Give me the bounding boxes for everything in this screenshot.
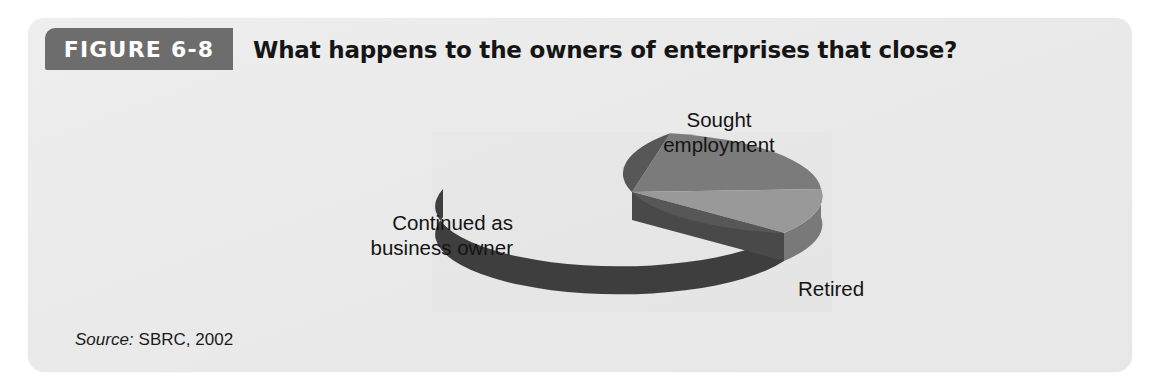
figure-title: What happens to the owners of enterprise… xyxy=(253,30,957,70)
pie-label-retired-text: Retired xyxy=(798,276,864,301)
pie-chart-area: Sought employment Continued as business … xyxy=(28,70,1132,320)
pie-label-continued-owner: Continued as business owner xyxy=(308,210,513,260)
figure-number-label: FIGURE 6-8 xyxy=(64,37,215,62)
pie-label-sought-line1: Sought xyxy=(624,107,814,132)
figure-number-banner: FIGURE 6-8 xyxy=(45,28,233,70)
pie-label-retired: Retired xyxy=(798,276,864,301)
pie-label-continued-line2: business owner xyxy=(308,235,513,260)
source-line: Source:SBRC, 2002 xyxy=(75,330,233,350)
pie-label-sought-employment: Sought employment xyxy=(624,107,814,157)
pie-label-continued-line1: Continued as xyxy=(308,210,513,235)
source-prefix: Source: xyxy=(75,330,134,349)
pie-label-sought-line2: employment xyxy=(624,132,814,157)
source-text: SBRC, 2002 xyxy=(134,330,234,349)
figure-card: FIGURE 6-8 What happens to the owners of… xyxy=(28,18,1132,372)
